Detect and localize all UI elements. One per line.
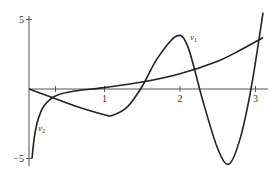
- series-labels: v1v2: [38, 32, 197, 134]
- x-tick-label: 3: [253, 93, 258, 104]
- x-tick-label: 2: [178, 93, 183, 104]
- line-chart: 1235−5 v1v2: [0, 0, 278, 173]
- series-label-v2: v2: [38, 123, 45, 134]
- curve-v2: [32, 38, 263, 159]
- series-label-v1: v1: [190, 32, 197, 43]
- axes: [29, 16, 268, 166]
- curve-v1: [29, 13, 263, 165]
- y-tick-label: −5: [13, 153, 24, 164]
- curves: [29, 13, 263, 165]
- y-tick-label: 5: [19, 14, 24, 25]
- x-tick-label: 1: [102, 93, 107, 104]
